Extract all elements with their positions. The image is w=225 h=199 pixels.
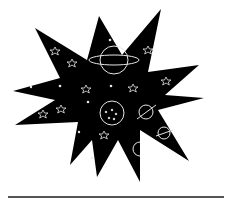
bottom-divider-line bbox=[8, 196, 224, 198]
starburst-shape bbox=[13, 9, 204, 182]
space-starburst-illustration bbox=[0, 0, 225, 199]
